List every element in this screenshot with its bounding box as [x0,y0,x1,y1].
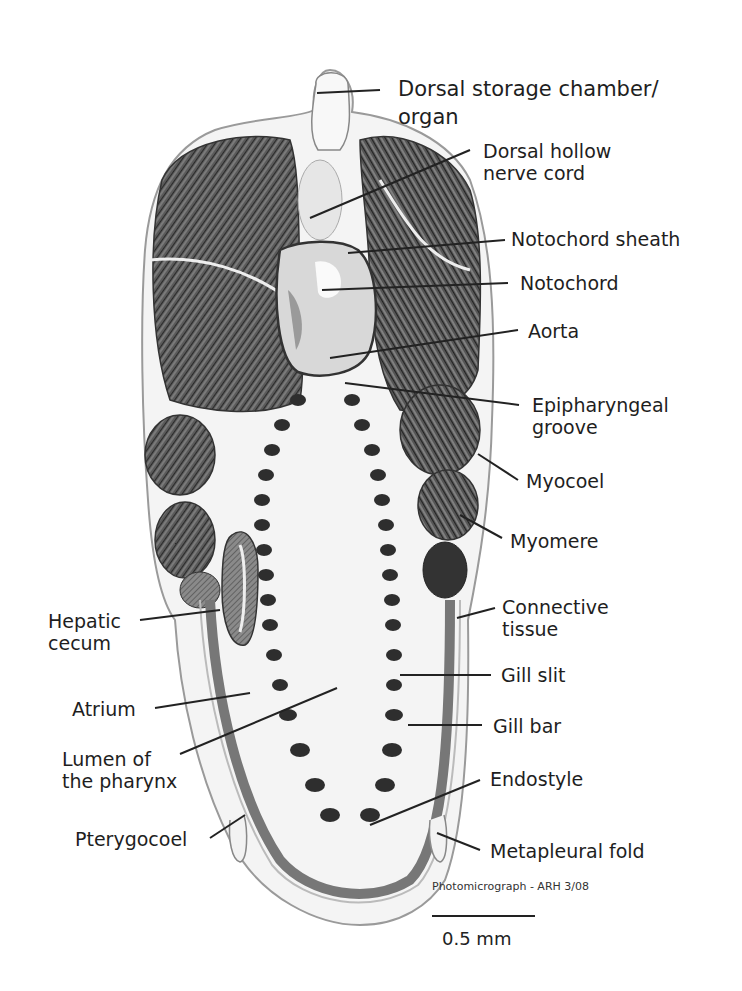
dorsal-storage-chamber [312,73,350,150]
label-pterygocoel: Pterygocoel [75,828,187,850]
photo-credit: Photomicrograph - ARH 3/08 [432,880,589,893]
label-hepatic-cecum: Hepatic cecum [48,610,121,654]
label-notochord: Notochord [520,272,619,294]
scale-bar-label: 0.5 mm [442,928,511,949]
label-gill-bar: Gill bar [493,715,561,737]
hepatic-cecum [222,532,258,645]
label-endostyle: Endostyle [490,768,583,790]
label-dorsal-hollow-nerve-cord: Dorsal hollow nerve cord [483,140,611,184]
label-dorsal-storage-chamber: Dorsal storage chamber/ organ [398,75,659,131]
dorsal-hollow-nerve-cord [298,160,342,240]
label-notochord-sheath: Notochord sheath [511,228,680,250]
label-metapleural-fold: Metapleural fold [490,840,645,862]
label-gill-slit: Gill slit [501,664,566,686]
notochord [277,242,376,376]
label-epipharyngeal-groove: Epipharyngeal groove [532,394,669,438]
label-lumen-of-pharynx: Lumen of the pharynx [62,748,177,792]
label-myomere: Myomere [510,530,599,552]
label-aorta: Aorta [528,320,579,342]
label-myocoel: Myocoel [526,470,604,492]
label-atrium: Atrium [72,698,136,720]
label-connective-tissue: Connective tissue [502,596,609,640]
